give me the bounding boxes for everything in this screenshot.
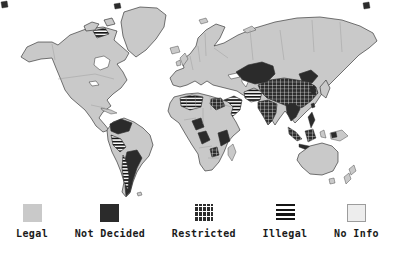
region-greenland bbox=[121, 7, 166, 57]
region-iceland bbox=[170, 46, 180, 54]
region-sumatra bbox=[288, 127, 302, 141]
world-map-figure: Legal Not Decided Restricted Illegal No … bbox=[0, 0, 395, 253]
region-new-zealand-north bbox=[349, 165, 356, 175]
legend-label-legal: Legal bbox=[16, 228, 48, 239]
legend: Legal Not Decided Restricted Illegal No … bbox=[0, 200, 395, 239]
legend-item-restricted: Restricted bbox=[172, 204, 236, 239]
legend-swatch-restricted bbox=[194, 204, 213, 222]
legend-label-no-info: No Info bbox=[334, 228, 379, 239]
region-madagascar bbox=[228, 144, 236, 161]
legend-item-illegal: Illegal bbox=[263, 204, 308, 239]
legend-swatch-no-info bbox=[347, 204, 366, 222]
legend-item-no-info: No Info bbox=[334, 204, 379, 239]
region-sulawesi bbox=[320, 130, 326, 138]
region-falklands bbox=[137, 192, 142, 196]
region-new-guinea-patch bbox=[331, 132, 337, 138]
region-svalbard bbox=[199, 18, 208, 24]
region-ireland bbox=[176, 60, 181, 66]
legend-swatch-illegal bbox=[276, 204, 295, 222]
region-borneo bbox=[305, 129, 316, 142]
legend-swatch-legal bbox=[23, 204, 42, 222]
region-philippines bbox=[308, 112, 315, 128]
region-north-america bbox=[21, 27, 129, 132]
legend-label-restricted: Restricted bbox=[172, 228, 236, 239]
landmasses bbox=[1, 1, 377, 197]
region-arctic-islet-east bbox=[363, 2, 370, 9]
legend-swatch-not-decided bbox=[100, 204, 119, 222]
region-tasmania bbox=[329, 178, 335, 184]
region-new-zealand-south bbox=[344, 173, 351, 184]
legend-item-legal: Legal bbox=[16, 204, 48, 239]
region-arctic-islet-corner bbox=[1, 1, 8, 8]
legend-item-not-decided: Not Decided bbox=[75, 204, 146, 239]
legend-label-illegal: Illegal bbox=[263, 228, 308, 239]
world-map bbox=[0, 0, 395, 200]
legend-label-not-decided: Not Decided bbox=[75, 228, 146, 239]
region-zimbabwe bbox=[210, 147, 219, 157]
region-arctic-islet-west bbox=[114, 3, 121, 9]
